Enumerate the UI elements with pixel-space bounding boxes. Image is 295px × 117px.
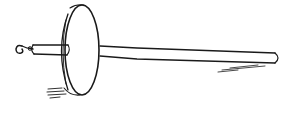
whorl-disk	[62, 5, 100, 95]
drop-spindle-drawing	[0, 0, 295, 117]
hook-icon	[16, 45, 33, 53]
shadow-hatching	[47, 88, 66, 98]
long-shaft	[100, 46, 278, 63]
short-shaft	[32, 45, 70, 55]
illustration-canvas: Line drawing of a drop spindle with a ho…	[0, 0, 295, 117]
shaft-shadow-hatching	[218, 65, 265, 72]
